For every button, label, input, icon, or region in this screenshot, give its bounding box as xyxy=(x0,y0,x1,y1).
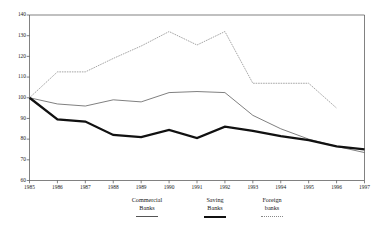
x-tick-label: 1992 xyxy=(212,185,238,190)
x-tick-label: 1985 xyxy=(17,185,43,190)
legend-label-line1: Commercial xyxy=(117,196,177,204)
y-tick-label: 140 xyxy=(4,12,26,17)
y-tick-label: 110 xyxy=(4,74,26,79)
x-tick-label: 1986 xyxy=(44,185,70,190)
y-tick-label: 80 xyxy=(4,136,26,141)
x-tick-label: 1987 xyxy=(72,185,98,190)
x-tick-label: 1988 xyxy=(100,185,126,190)
x-tick-label: 1991 xyxy=(184,185,210,190)
x-tick-label: 1990 xyxy=(156,185,182,190)
y-tick-label: 130 xyxy=(4,33,26,38)
y-tick-label: 60 xyxy=(4,178,26,183)
chart-legend: CommercialBanksSavingBanksForeignbanks xyxy=(0,196,377,232)
chart-figure: 60708090100110120130140 1985198619871988… xyxy=(0,0,377,232)
legend-item-saving: SavingBanks xyxy=(185,196,245,212)
plot-frame xyxy=(30,15,365,181)
x-tick-label: 1995 xyxy=(296,185,322,190)
x-tick-label: 1993 xyxy=(240,185,266,190)
legend-label-line2: Banks xyxy=(185,204,245,212)
axes xyxy=(30,15,365,181)
x-tick-label: 1996 xyxy=(324,185,350,190)
legend-item-foreign: Foreignbanks xyxy=(242,196,302,212)
y-tick-label: 90 xyxy=(4,116,26,121)
y-tick-label: 100 xyxy=(4,95,26,100)
thick-line-swatch xyxy=(204,216,226,218)
x-tick-label: 1994 xyxy=(268,185,294,190)
legend-label-line1: Foreign xyxy=(242,196,302,204)
legend-label-line2: Banks xyxy=(117,204,177,212)
legend-item-commercial: CommercialBanks xyxy=(117,196,177,212)
legend-label-line1: Saving xyxy=(185,196,245,204)
dotted-line-swatch xyxy=(261,216,283,217)
y-tick-label: 70 xyxy=(4,157,26,162)
thin-line-swatch xyxy=(136,216,158,217)
legend-label-line2: banks xyxy=(242,204,302,212)
y-tick-label: 120 xyxy=(4,54,26,59)
data-series xyxy=(30,32,365,153)
series-line-foreign-banks xyxy=(30,32,337,109)
x-tick-label: 1997 xyxy=(352,185,377,190)
x-tick-label: 1989 xyxy=(128,185,154,190)
axis-ticks xyxy=(27,15,365,183)
